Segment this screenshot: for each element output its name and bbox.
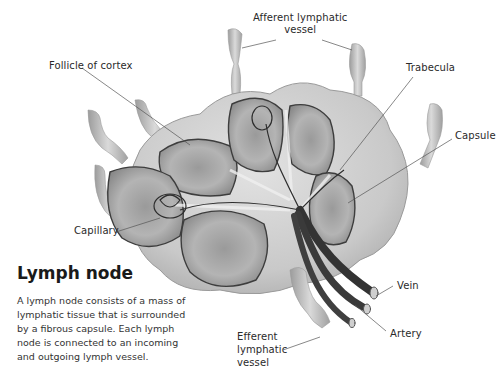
label-capillary: Capillary — [74, 225, 119, 237]
label-efferent-line1: Efferent — [237, 330, 287, 343]
label-efferent-line2: lymphatic — [237, 343, 287, 356]
label-afferent-lymphatic-vessel: Afferent lymphatic vessel — [253, 12, 347, 36]
label-afferent-line2: vessel — [253, 24, 347, 36]
label-afferent-line1: Afferent lymphatic — [253, 12, 347, 24]
label-efferent-lymphatic-vessel: Efferent lymphatic vessel — [237, 330, 287, 369]
label-efferent-line3: vessel — [237, 356, 287, 369]
caption-body: A lymph node consists of a mass of lymph… — [17, 294, 187, 364]
label-vein: Vein — [397, 280, 419, 292]
label-follicle-of-cortex: Follicle of cortex — [49, 60, 133, 72]
label-artery: Artery — [390, 328, 422, 340]
label-trabecula: Trabecula — [406, 62, 455, 74]
caption-title: Lymph node — [17, 263, 133, 283]
label-capsule: Capsule — [455, 130, 496, 142]
